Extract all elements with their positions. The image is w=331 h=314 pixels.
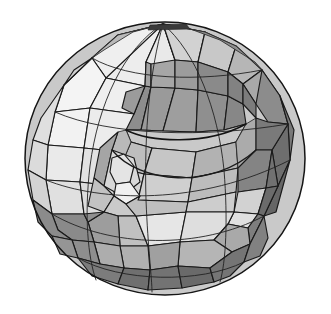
pole-notch [148,24,190,30]
lower-facet [120,246,150,270]
lit-quad-facet [46,145,84,182]
faceted-sphere-render: Faceted sphere with concave cavity Grays… [0,0,331,314]
pole-notch-facet [148,24,190,30]
cavity-upper-facet [151,60,175,88]
shadow-facet [148,266,182,290]
lit-quad-facet [46,180,84,214]
cavity-wall-facet [196,90,228,132]
lower-facet [148,242,180,270]
